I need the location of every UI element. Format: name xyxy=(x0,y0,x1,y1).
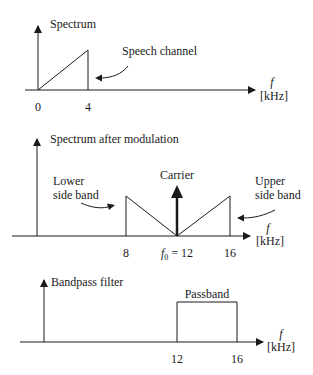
upper-sideband-label-2: side band xyxy=(255,189,301,202)
carrier-label: Carrier xyxy=(152,169,202,182)
bandpass-title: Bandpass filter xyxy=(51,276,123,289)
tick-4: 4 xyxy=(82,101,94,114)
tick-16: 16 xyxy=(222,247,238,260)
upper-sideband-label-1: Upper xyxy=(255,175,285,188)
speech-channel-shape xyxy=(38,50,88,90)
tick-0: 0 xyxy=(32,101,44,114)
axis-symbol-f: f xyxy=(264,76,280,89)
lower-sideband-label-1: Lower xyxy=(53,175,84,188)
modulated-spectrum-panel xyxy=(12,139,275,236)
axis-unit: [kHz] xyxy=(256,235,284,248)
axis-unit: [kHz] xyxy=(267,341,295,354)
speech-channel-pointer-icon xyxy=(100,66,128,78)
axis-unit: [kHz] xyxy=(260,90,288,103)
tick-8: 8 xyxy=(120,247,132,260)
lower-sideband-pointer-icon xyxy=(81,203,108,208)
spectrum-title: Spectrum xyxy=(50,18,96,31)
passband-label: Passband xyxy=(172,288,242,301)
carrier-arrow-icon xyxy=(171,185,183,198)
tick-12: 12 xyxy=(169,353,185,366)
speech-channel-label: Speech channel xyxy=(122,45,197,58)
passband-box xyxy=(177,302,237,342)
tick-16: 16 xyxy=(229,353,245,366)
spectrum-panel xyxy=(25,26,255,90)
modulation-title: Spectrum after modulation xyxy=(50,133,179,146)
tick-f0: f0 = 12 xyxy=(161,247,193,264)
lower-sideband-label-2: side band xyxy=(53,189,99,202)
upper-sideband-pointer-icon xyxy=(243,210,275,218)
